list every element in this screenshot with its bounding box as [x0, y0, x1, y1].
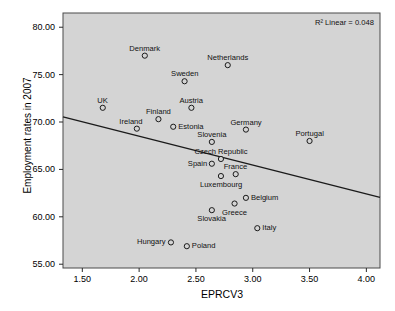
data-point-marker[interactable]: [156, 117, 161, 122]
y-axis-tick-label: 70.00: [11, 117, 55, 127]
data-point-marker[interactable]: [243, 127, 248, 132]
data-point-marker[interactable]: [209, 139, 214, 144]
y-axis-tick-label: 75.00: [11, 70, 55, 80]
data-point-marker[interactable]: [184, 244, 189, 249]
data-point-marker[interactable]: [100, 105, 105, 110]
data-point-marker[interactable]: [189, 105, 194, 110]
data-point-marker[interactable]: [171, 124, 176, 129]
data-point-label: Poland: [192, 242, 216, 250]
y-axis-tick-label: 55.00: [11, 259, 55, 269]
data-point-marker[interactable]: [218, 173, 223, 178]
x-axis-tick-label: 2.00: [119, 274, 159, 284]
data-point-marker[interactable]: [209, 208, 214, 213]
data-point-label: France: [224, 163, 248, 171]
data-point-marker[interactable]: [307, 138, 312, 143]
data-point-label: Spain: [188, 160, 207, 168]
data-point-label: Netherlands: [207, 54, 248, 62]
data-point-label: Austria: [179, 97, 203, 105]
data-point-label: Denmark: [129, 45, 160, 53]
data-point-marker[interactable]: [243, 195, 248, 200]
data-point-marker[interactable]: [233, 172, 238, 177]
data-point-label: Slovakia: [197, 215, 226, 223]
data-point-marker[interactable]: [134, 126, 139, 131]
data-point-marker[interactable]: [225, 63, 230, 68]
x-axis-tick-label: 3.00: [233, 274, 273, 284]
data-point-label: Luxembourg: [200, 181, 242, 189]
plot-area: [63, 13, 380, 268]
data-point-marker[interactable]: [232, 201, 237, 206]
x-axis-title: EPRCV3: [63, 288, 381, 300]
data-point-label: Hungary: [137, 238, 166, 246]
y-axis-title: Employment rates in 2007: [22, 36, 33, 236]
data-point-label: Italy: [262, 224, 276, 232]
data-point-label: Ireland: [119, 118, 142, 126]
data-point-label: Finland: [146, 108, 171, 116]
x-axis-tick-label: 2.50: [176, 274, 216, 284]
data-point-marker[interactable]: [255, 226, 260, 231]
data-point-marker[interactable]: [142, 53, 147, 58]
data-point-label: Sweden: [171, 70, 198, 78]
x-axis-tick-label: 1.50: [62, 274, 102, 284]
data-point-label: UK: [97, 97, 108, 105]
x-axis-tick-label: 4.00: [346, 274, 386, 284]
data-point-marker[interactable]: [209, 161, 214, 166]
r-squared-annotation: R² Linear = 0.048: [315, 18, 374, 27]
data-point-marker[interactable]: [168, 240, 173, 245]
y-axis-tick-label: 65.00: [11, 164, 55, 174]
data-point-label: Czech Republic: [194, 148, 247, 156]
y-axis-tick-label: 60.00: [11, 212, 55, 222]
scatter-plot-figure: Employment rates in 2007 EPRCV3 R² Linea…: [0, 0, 395, 311]
y-axis-tick-label: 80.00: [11, 22, 55, 32]
data-point-label: Slovenia: [197, 131, 226, 139]
data-point-marker[interactable]: [218, 156, 223, 161]
x-axis-tick-label: 3.50: [290, 274, 330, 284]
data-point-marker[interactable]: [182, 79, 187, 84]
data-point-label: Portugal: [296, 130, 324, 138]
data-point-label: Germany: [230, 119, 261, 127]
data-point-label: Belgium: [251, 194, 278, 202]
